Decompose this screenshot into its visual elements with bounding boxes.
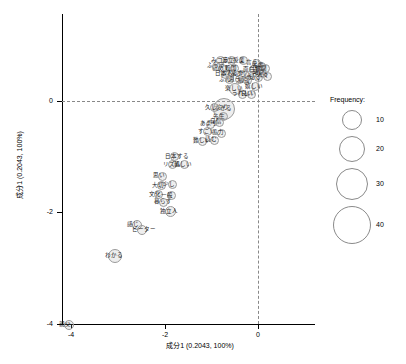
data-point-label: 日本する	[165, 154, 189, 160]
scatter-plot: -4 -2 0 -4 -2 0 成分1 (0.2043, 100%) 成分1 (…	[0, 0, 406, 364]
data-point-label: 思い	[153, 173, 165, 179]
data-point-label: 久しぶり	[205, 105, 229, 111]
data-point-label: 人々	[257, 73, 269, 79]
data-point-label: 違立	[222, 58, 234, 64]
data-point-label: 大切	[152, 183, 164, 189]
data-point-label: 協力	[212, 130, 224, 136]
data-point-label: 一般	[161, 193, 173, 199]
legend: Frequency: 10203040	[330, 96, 404, 226]
data-point-label: 親父	[59, 322, 71, 328]
data-point-label: 嬉しい	[245, 84, 263, 90]
data-point-label: 読む	[205, 137, 217, 143]
data-point-label: 日本人	[215, 71, 233, 77]
data-point-label: ビーター	[132, 227, 156, 233]
legend-label: 30	[376, 180, 384, 187]
data-point-label: 文化	[149, 192, 161, 198]
data-point-label: 独立人	[160, 209, 178, 215]
data-point-label: 良い	[241, 91, 253, 97]
legend-bubble	[333, 206, 371, 244]
legend-title: Frequency:	[330, 96, 365, 103]
legend-label: 10	[376, 116, 384, 123]
data-point-label: 少し	[163, 182, 175, 188]
data-point-label: 親しい	[174, 162, 192, 168]
data-point-label: 暮らす	[154, 199, 172, 205]
legend-bubble	[339, 136, 365, 162]
data-point-label: 授業	[233, 58, 245, 64]
legend-bubble	[336, 168, 368, 200]
legend-bubble	[342, 110, 362, 130]
data-point-label: わかる	[105, 253, 123, 259]
legend-label: 40	[376, 221, 384, 228]
legend-label: 20	[376, 145, 384, 152]
